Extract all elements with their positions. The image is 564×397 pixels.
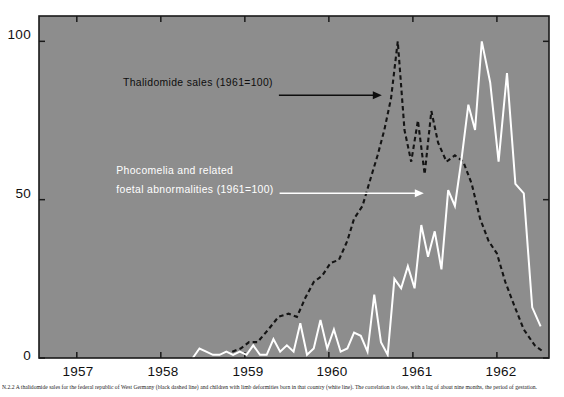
x-tick-label-1958: 1958 [133,364,193,379]
x-tick-label-1961: 1961 [387,364,447,379]
figure-container: 100 50 0 1957 1958 1959 1960 1961 1962 T… [0,0,564,397]
x-tick-label-1957: 1957 [48,364,108,379]
chart-plot-area: Thalidomide sales (1961=100) Phocomelia … [0,0,564,397]
y-tick-label-0: 0 [0,348,31,363]
x-tick-label-1959: 1959 [218,364,278,379]
figure-caption: N.2.2 A thalidomide sales for the federa… [2,384,562,391]
phocomelia-label-line1: Phocomelia and related [116,165,233,176]
thalidomide-sales-label: Thalidomide sales (1961=100) [123,77,273,88]
x-tick-label-1962: 1962 [471,364,531,379]
y-tick-label-100: 100 [0,27,31,42]
phocomelia-label-line2: foetal abnormalities (1961=100) [116,184,273,195]
x-tick-label-1960: 1960 [302,364,362,379]
y-tick-label-50: 50 [0,186,31,201]
